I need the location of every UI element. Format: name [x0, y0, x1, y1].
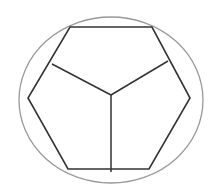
right-spoke: [111, 61, 168, 95]
hexagon-outline: [28, 27, 190, 169]
diagram-canvas: [0, 0, 214, 190]
left-spoke: [52, 64, 111, 95]
spokes-group: [52, 61, 168, 172]
